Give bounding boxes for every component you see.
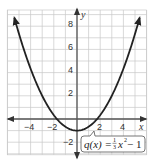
equation-fraction-numerator: 1 [113,137,116,143]
y-tick-label: 2 [68,88,73,98]
equation-label: q(x) = [84,138,112,151]
equation-variable: x [117,138,123,150]
x-tick-label: −4 [24,122,34,132]
y-tick-label: 4 [68,65,73,75]
x-tick-label: 2 [97,122,102,132]
equation-callout: q(x) = 1 3 x 2 − 1 [81,131,145,152]
x-tick-label: −2 [47,122,57,132]
y-tick-label: 8 [68,19,73,29]
equation-rhs: − 1 [127,138,141,150]
x-tick-label: 4 [120,122,125,132]
x-axis-label: x [138,121,144,132]
equation-lhs: q(x) = [84,138,112,151]
function-graph: y x −4 −2 2 4 8 6 4 2 −2 q(x) = 1 3 x 2 … [0,0,153,161]
y-tick-label: −2 [63,137,73,147]
equation-fraction-denominator: 3 [113,144,116,150]
y-axis-label: y [80,9,86,20]
y-tick-label: 6 [68,42,73,52]
